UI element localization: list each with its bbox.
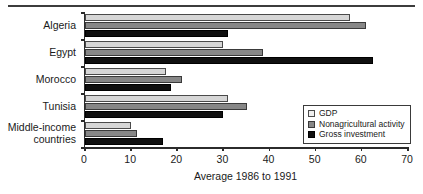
x-axis-tick-label: 60 [355, 153, 367, 165]
bar [85, 22, 366, 29]
legend-swatch-gdp-icon [308, 110, 315, 117]
bar [85, 130, 137, 137]
x-axis-tick [315, 147, 317, 151]
category-axis-labels: AlgeriaEgyptMoroccoTunisiaMiddle-income … [0, 12, 80, 147]
bar [85, 111, 223, 118]
x-axis-tick [407, 147, 409, 151]
bar [85, 84, 171, 91]
bar-group [85, 66, 408, 93]
x-axis-tick-label: 0 [81, 153, 87, 165]
bar [85, 95, 228, 102]
x-axis-tick [361, 147, 363, 151]
bar [85, 122, 131, 129]
chart-legend: GDP Nonagricultural activity Gross inves… [303, 105, 411, 144]
x-axis-tick [269, 147, 271, 151]
legend-label-gdp: GDP [319, 109, 337, 119]
bar [85, 49, 263, 56]
y-axis-tick [81, 66, 85, 68]
bar [85, 68, 166, 75]
x-axis-title: Average 1986 to 1991 [84, 170, 407, 182]
x-axis: 010203040506070 [84, 147, 407, 149]
chart-figure: AlgeriaEgyptMoroccoTunisiaMiddle-income … [0, 0, 423, 194]
bar [85, 14, 350, 21]
bar [85, 76, 182, 83]
bar-group [85, 12, 408, 39]
category-label: Morocco [0, 66, 80, 93]
legend-label-nonagricultural-activity: Nonagricultural activity [319, 120, 405, 130]
bar [85, 57, 373, 64]
category-label: Algeria [0, 12, 80, 39]
bar [85, 103, 247, 110]
x-axis-tick-label: 40 [263, 153, 275, 165]
category-label: Egypt [0, 39, 80, 66]
x-axis-tick-label: 10 [124, 153, 136, 165]
bar-group [85, 39, 408, 66]
x-axis-tick [130, 147, 132, 151]
y-axis-tick [81, 120, 85, 122]
top-rule-divider [8, 5, 415, 7]
legend-item-nonagricultural-activity: Nonagricultural activity [308, 120, 405, 130]
legend-item-gross-investment: Gross investment [308, 130, 405, 140]
x-axis-tick [176, 147, 178, 151]
bar [85, 138, 163, 145]
legend-item-gdp: GDP [308, 109, 405, 119]
x-axis-tick-label: 70 [401, 153, 413, 165]
legend-label-gross-investment: Gross investment [319, 130, 385, 140]
x-axis-tick-label: 50 [309, 153, 321, 165]
category-label: Tunisia [0, 93, 80, 120]
y-axis-tick [81, 93, 85, 95]
x-axis-tick [84, 147, 86, 151]
x-axis-tick-label: 20 [170, 153, 182, 165]
category-label: Middle-income countries [0, 120, 80, 147]
x-axis-tick [222, 147, 224, 151]
bar [85, 30, 228, 37]
bar [85, 41, 223, 48]
y-axis-tick [81, 12, 85, 14]
legend-swatch-gross-investment-icon [308, 131, 315, 138]
x-axis-tick-label: 30 [217, 153, 229, 165]
y-axis-tick [81, 39, 85, 41]
legend-swatch-nonagricultural-icon [308, 121, 315, 128]
